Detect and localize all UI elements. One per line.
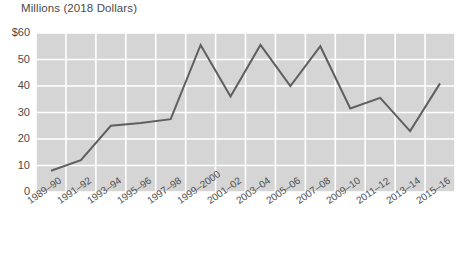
chart-container: Millions (2018 Dollars) 01020304050$60 1…: [0, 0, 459, 254]
y-axis-tick-label: $60: [0, 26, 30, 38]
y-axis-tick-label: 30: [0, 106, 30, 118]
y-axis-tick-label: 40: [0, 79, 30, 91]
y-axis-tick-label: 20: [0, 132, 30, 144]
y-axis-tick-label: 10: [0, 159, 30, 171]
y-axis-tick-label: 50: [0, 53, 30, 65]
chart-plot-area: [0, 0, 459, 254]
